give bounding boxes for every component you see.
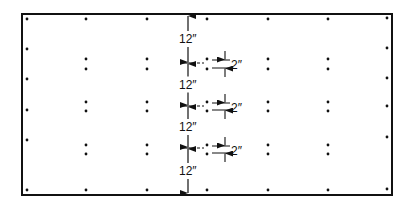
fastener-dot [146, 144, 149, 147]
fastener-dot [327, 144, 330, 147]
fastener-dots [26, 17, 389, 192]
fastener-dot [327, 68, 330, 71]
fastener-dot [85, 144, 88, 147]
fastener-dot [146, 153, 149, 156]
fastener-dot [26, 18, 29, 21]
fastener-dot [85, 58, 88, 61]
fastener-dot [267, 110, 270, 113]
fastener-dot [386, 105, 389, 108]
fastener-dot [267, 153, 270, 156]
fastener-dot [206, 18, 209, 21]
fastener-dot [85, 18, 88, 21]
panel-outline [22, 14, 392, 195]
fastener-dot [327, 58, 330, 61]
fastener-dot [206, 110, 209, 113]
fastener-layout-diagram: 12″12″12″12″2″2″2″ [0, 0, 413, 204]
fastener-dot [26, 78, 29, 81]
fastener-dot [85, 101, 88, 104]
dimension-label-12in: 12″ [179, 78, 197, 92]
fastener-dot [386, 77, 389, 80]
dimension-annotations: 12″12″12″12″2″2″2″ [179, 16, 243, 193]
fastener-dot [146, 189, 149, 192]
dimension-label-12in: 12″ [179, 32, 197, 46]
fastener-dot [267, 18, 270, 21]
fastener-dot [386, 17, 389, 20]
fastener-dot [267, 189, 270, 192]
fastener-dot [85, 68, 88, 71]
fastener-dot [386, 47, 389, 50]
fastener-dot [206, 58, 209, 61]
fastener-dot [146, 58, 149, 61]
fastener-dot [386, 136, 389, 139]
fastener-dot [327, 189, 330, 192]
fastener-dot [26, 189, 29, 192]
fastener-dot [26, 139, 29, 142]
fastener-dot [146, 18, 149, 21]
fastener-dot [327, 101, 330, 104]
fastener-dot [206, 68, 209, 71]
fastener-dot [267, 68, 270, 71]
fastener-dot [267, 144, 270, 147]
fastener-dot [26, 109, 29, 112]
fastener-dot [146, 110, 149, 113]
dimension-label-2in: 2″ [231, 101, 243, 115]
fastener-dot [327, 110, 330, 113]
dimension-label-12in: 12″ [179, 164, 197, 178]
fastener-dot [85, 189, 88, 192]
fastener-dot [206, 189, 209, 192]
fastener-dot [26, 48, 29, 51]
fastener-dot [386, 188, 389, 191]
fastener-dot [267, 101, 270, 104]
fastener-dot [146, 101, 149, 104]
fastener-dot [85, 110, 88, 113]
fastener-dot [206, 101, 209, 104]
fastener-dot [206, 153, 209, 156]
dimension-label-2in: 2″ [231, 144, 243, 158]
fastener-dot [327, 153, 330, 156]
fastener-dot [267, 58, 270, 61]
dimension-label-2in: 2″ [231, 58, 243, 72]
fastener-dot [85, 153, 88, 156]
fastener-dot [206, 144, 209, 147]
fastener-dot [146, 68, 149, 71]
fastener-dot [327, 18, 330, 21]
dimension-label-12in: 12″ [179, 120, 197, 134]
